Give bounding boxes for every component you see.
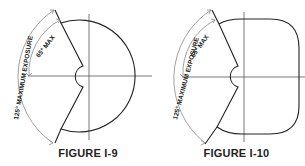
rounded-square-outline-with-cutout — [217, 19, 299, 134]
figure-caption: FIGURE I-9 — [12, 147, 164, 159]
figure-i-10: 65° MAX 125° MAXIMUM EXPOSURE FIGURE I-1… — [152, 0, 305, 166]
max-exposure-label: 125° MAXIMUM EXPOSURE — [12, 35, 34, 121]
figure-i-9: 65° MAX 125° MAXIMUM EXPOSURE FIGURE I-9 — [0, 0, 152, 166]
max-exposure-arc — [174, 10, 211, 143]
figure-caption: FIGURE I-10 — [160, 147, 305, 159]
max-exposure-label: 125° MAXIMUM EXPOSURE — [171, 36, 200, 121]
arrow-head-icon — [201, 140, 205, 145]
cut-edge-bottom-extension — [205, 127, 217, 144]
figure-i-9-drawing: 65° MAX 125° MAXIMUM EXPOSURE — [0, 0, 152, 166]
cut-edge-bottom-extension — [55, 129, 61, 143]
max-angle-label: 65° MAX — [34, 33, 56, 58]
figure-i-10-drawing: 65° MAX 125° MAXIMUM EXPOSURE — [152, 0, 305, 166]
arrow-head-icon — [49, 140, 53, 145]
cut-edge-top-extension — [212, 10, 219, 24]
